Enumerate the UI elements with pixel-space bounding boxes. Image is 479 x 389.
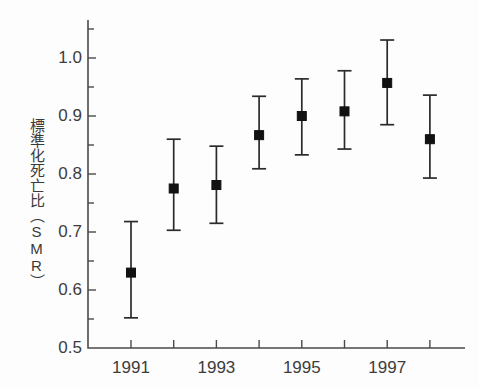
x-tick-label-1995: 1995 (272, 358, 332, 378)
x-tick-label-1993: 1993 (186, 358, 246, 378)
plot-area (0, 0, 479, 389)
data-point-1994 (252, 96, 266, 169)
smr-error-bar-chart: 標準化死亡比（SMR） 0.50.60.70.80.91.0 199119931… (0, 0, 479, 389)
data-point-1996 (338, 71, 352, 149)
data-points-group (124, 40, 437, 318)
marker-square-1998 (425, 135, 434, 144)
marker-square-1994 (255, 131, 264, 140)
marker-square-1995 (297, 112, 306, 121)
data-point-1993 (209, 146, 223, 223)
marker-square-1991 (127, 268, 136, 277)
x-tick-label-1997: 1997 (357, 358, 417, 378)
marker-square-1992 (169, 184, 178, 193)
data-point-1998 (423, 95, 437, 178)
tick-marks-group (88, 29, 430, 348)
data-point-1991 (124, 222, 138, 318)
data-point-1997 (380, 40, 394, 125)
axis-spines (88, 20, 465, 348)
marker-square-1997 (383, 78, 392, 87)
marker-square-1993 (212, 181, 221, 190)
data-point-1995 (295, 79, 309, 155)
data-point-1992 (167, 139, 181, 230)
marker-square-1996 (340, 107, 349, 116)
x-tick-label-1991: 1991 (101, 358, 161, 378)
axes-group (88, 20, 465, 348)
